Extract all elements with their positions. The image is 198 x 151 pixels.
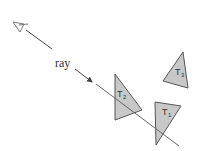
ray-arrow — [75, 69, 92, 82]
eye-icon — [13, 22, 28, 32]
triangle-t3: T 3 — [163, 52, 188, 88]
diagram-canvas: ray T 2 T 1 T 3 — [0, 0, 198, 151]
ray-label: ray — [55, 56, 70, 70]
ray-triangle-diagram: ray T 2 T 1 T 3 — [0, 0, 198, 151]
triangle-t1: T 1 — [155, 102, 181, 145]
ray-segment-1 — [26, 30, 52, 49]
triangle-t2: T 2 — [115, 74, 142, 120]
